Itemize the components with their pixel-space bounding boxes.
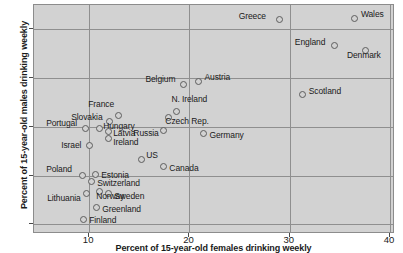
data-point-marker[interactable] bbox=[160, 163, 167, 170]
data-point-marker[interactable] bbox=[276, 16, 283, 23]
data-point-label: Finland bbox=[89, 215, 116, 225]
data-point-label: Scotland bbox=[309, 86, 341, 96]
data-point-marker[interactable] bbox=[115, 112, 122, 119]
data-point-marker[interactable] bbox=[88, 178, 95, 185]
data-point-label: Czech Rep. bbox=[165, 116, 208, 126]
data-point-label: Greenland bbox=[102, 204, 141, 214]
data-point-label: Greece bbox=[239, 11, 266, 21]
data-point-label: Belgium bbox=[145, 74, 175, 84]
data-point-label: Denmark bbox=[347, 50, 381, 60]
data-point-marker[interactable] bbox=[180, 81, 187, 88]
data-point-label: Israel bbox=[61, 140, 81, 150]
data-point-marker[interactable] bbox=[82, 125, 89, 132]
data-point-marker[interactable] bbox=[93, 204, 100, 211]
data-point-marker[interactable] bbox=[299, 91, 306, 98]
data-point-marker[interactable] bbox=[79, 172, 86, 179]
data-point-marker[interactable] bbox=[160, 127, 167, 134]
data-point-label: Germany bbox=[209, 130, 243, 140]
data-point-marker[interactable] bbox=[195, 78, 202, 85]
gridline-horizontal bbox=[34, 224, 393, 225]
data-point-label: Austria bbox=[204, 72, 230, 82]
y-axis-label: Percent of 15-year-old males drinking we… bbox=[19, 5, 29, 225]
data-point-marker[interactable] bbox=[83, 190, 90, 197]
data-point-label: Portugal bbox=[46, 118, 77, 128]
data-point-marker[interactable] bbox=[351, 15, 358, 22]
data-point-label: Poland bbox=[46, 164, 72, 174]
data-point-label: N. Ireland bbox=[171, 94, 207, 104]
data-point-marker[interactable] bbox=[105, 135, 112, 142]
data-point-marker[interactable] bbox=[331, 42, 338, 49]
data-point-label: US bbox=[146, 150, 158, 160]
gridline-horizontal bbox=[34, 29, 393, 30]
data-point-label: Canada bbox=[169, 163, 198, 173]
x-tick-label: 10 bbox=[73, 234, 103, 245]
data-point-label: Lithuania bbox=[47, 193, 81, 203]
data-point-marker[interactable] bbox=[96, 125, 103, 132]
data-point-marker[interactable] bbox=[80, 216, 87, 223]
gridline-horizontal bbox=[34, 176, 393, 177]
data-point-marker[interactable] bbox=[200, 130, 207, 137]
scatter-plot-figure: Percent of 15-year-old males drinking we… bbox=[0, 0, 403, 253]
data-point-marker[interactable] bbox=[105, 128, 112, 135]
data-point-label: England bbox=[295, 37, 326, 47]
data-point-label: Ireland bbox=[113, 137, 138, 147]
data-point-label: Russia bbox=[133, 128, 158, 138]
data-point-marker[interactable] bbox=[138, 156, 145, 163]
data-point-label: France bbox=[88, 99, 114, 109]
x-tick-label: 40 bbox=[374, 234, 403, 245]
x-tick-label: 30 bbox=[274, 234, 304, 245]
data-point-marker[interactable] bbox=[92, 171, 99, 178]
data-point-label: Norway bbox=[96, 191, 124, 201]
gridline-vertical bbox=[290, 5, 291, 232]
data-point-label: Switzerland bbox=[97, 178, 140, 188]
gridline-vertical bbox=[390, 5, 391, 232]
data-point-marker[interactable] bbox=[86, 142, 93, 149]
x-tick-label: 20 bbox=[173, 234, 203, 245]
data-point-marker[interactable] bbox=[173, 108, 180, 115]
plot-area: GreeceWalesEnglandDenmarkAustriaBelgiumS… bbox=[33, 4, 394, 233]
data-point-label: Wales bbox=[361, 9, 384, 19]
